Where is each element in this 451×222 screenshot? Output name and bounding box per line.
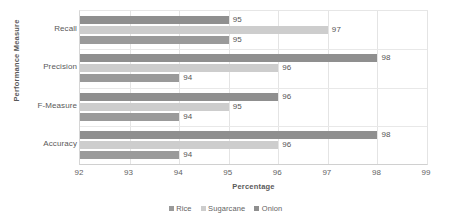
bar-onion-accuracy: [80, 131, 377, 139]
legend-swatch-icon: [169, 206, 174, 211]
x-axis-tick-label: 96: [265, 168, 289, 177]
plot-area: 959795989694969594989694: [79, 10, 428, 165]
bar-value-label: 96: [282, 141, 291, 149]
legend-item-sugarcane[interactable]: Sugarcane: [201, 204, 246, 213]
chart-legend: RiceSugarcaneOnion: [0, 204, 451, 213]
x-axis-tick-label: 97: [315, 168, 339, 177]
bar-rice-recall: [80, 36, 229, 44]
x-axis-title: Percentage: [79, 182, 428, 191]
y-axis-tick-label-accuracy: Accuracy: [9, 139, 77, 148]
legend-item-rice[interactable]: Rice: [169, 204, 192, 213]
bar-value-label: 94: [183, 74, 192, 82]
bar-chart: Performance Measure RecallPrecisionF-Mea…: [0, 0, 451, 222]
gridline-horizontal: [80, 49, 427, 50]
x-axis-tick-label: 92: [67, 168, 91, 177]
gridline-vertical: [427, 11, 428, 164]
bar-rice-f-measure: [80, 113, 179, 121]
legend-label: Onion: [262, 204, 283, 213]
x-axis-tick-label: 99: [414, 168, 438, 177]
bar-value-label: 98: [381, 131, 390, 139]
bar-value-label: 96: [282, 93, 291, 101]
bar-rice-accuracy: [80, 151, 179, 159]
x-axis-tick-label: 95: [216, 168, 240, 177]
bar-value-label: 98: [381, 54, 390, 62]
bar-value-label: 94: [183, 151, 192, 159]
x-axis-tick-label: 94: [166, 168, 190, 177]
bar-onion-recall: [80, 16, 229, 24]
bar-value-label: 94: [183, 113, 192, 121]
gridline-horizontal: [80, 126, 427, 127]
bar-onion-precision: [80, 54, 377, 62]
legend-label: Sugarcane: [208, 204, 245, 213]
bar-value-label: 95: [233, 103, 242, 111]
bar-sugarcane-recall: [80, 26, 328, 34]
bar-sugarcane-precision: [80, 64, 278, 72]
legend-swatch-icon: [254, 206, 259, 211]
x-axis-tick-labels: 9293949596979899: [79, 168, 428, 180]
bar-value-label: 96: [282, 64, 291, 72]
bar-onion-f-measure: [80, 93, 278, 101]
legend-item-onion[interactable]: Onion: [254, 204, 282, 213]
bar-value-label: 97: [332, 26, 341, 34]
legend-label: Rice: [176, 204, 191, 213]
bar-sugarcane-accuracy: [80, 141, 278, 149]
bar-value-label: 95: [233, 36, 242, 44]
bar-sugarcane-f-measure: [80, 103, 229, 111]
x-axis-tick-label: 93: [117, 168, 141, 177]
y-axis-tick-label-precision: Precision: [9, 62, 77, 71]
y-axis-tick-label-recall: Recall: [9, 24, 77, 33]
legend-swatch-icon: [201, 206, 206, 211]
gridline-horizontal: [80, 88, 427, 89]
bar-rice-precision: [80, 74, 179, 82]
y-axis-tick-label-f-measure: F-Measure: [9, 101, 77, 110]
bar-value-label: 95: [233, 16, 242, 24]
x-axis-tick-label: 98: [364, 168, 388, 177]
y-axis-tick-labels: RecallPrecisionF-MeasureAccuracy: [3, 0, 77, 222]
